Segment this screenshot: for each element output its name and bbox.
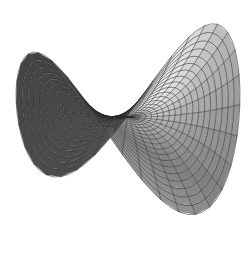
surface-plot-canvas: Grayscale 3D surface plot of a saddle (h… [0, 0, 252, 253]
surface-facet [227, 79, 234, 107]
surface-facet [222, 83, 228, 108]
surface-facet [216, 87, 222, 110]
surface-plot-figure: Grayscale 3D surface plot of a saddle (h… [0, 0, 252, 253]
surface-facet [233, 75, 240, 106]
